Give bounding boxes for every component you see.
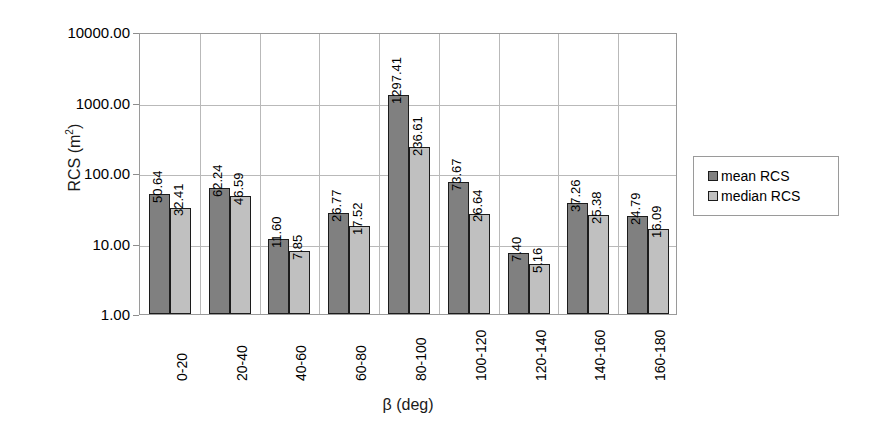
bar-mean-60-80[interactable] bbox=[328, 213, 349, 314]
bar-value-label: 37.26 bbox=[569, 180, 582, 213]
bar-value-label: 236.61 bbox=[411, 116, 424, 156]
y-tick-label: 100.00 bbox=[84, 166, 130, 181]
gridline-vertical bbox=[618, 34, 619, 314]
legend-swatch-icon bbox=[708, 171, 718, 181]
bar-median-100-120[interactable] bbox=[469, 214, 490, 315]
bar-value-label: 73.67 bbox=[450, 159, 463, 192]
legend-item-median[interactable]: median RCS bbox=[694, 186, 838, 206]
bar-value-label: 26.77 bbox=[330, 190, 343, 223]
bar-median-80-100[interactable] bbox=[409, 147, 430, 314]
bar-median-60-80[interactable] bbox=[349, 226, 370, 314]
gridline-vertical bbox=[379, 34, 380, 314]
bar-value-label: 17.52 bbox=[351, 203, 364, 236]
rcs-bar-chart: RCS (m2) 10000.001000.00100.0010.001.00 … bbox=[0, 0, 871, 434]
bar-value-label: 11.60 bbox=[270, 216, 283, 248]
bar-value-label: 5.16 bbox=[531, 247, 544, 272]
bar-value-label: 7.40 bbox=[510, 236, 523, 261]
x-axis-title: β (deg) bbox=[139, 396, 677, 414]
bar-mean-40-60[interactable] bbox=[268, 239, 289, 314]
y-tick-mark bbox=[133, 315, 139, 316]
bar-mean-160-180[interactable] bbox=[627, 216, 648, 314]
gridline-vertical bbox=[558, 34, 559, 314]
y-tick-label: 1.00 bbox=[101, 307, 130, 322]
x-tick-label-0-20: 0-20 bbox=[175, 353, 189, 381]
legend-item-mean[interactable]: mean RCS bbox=[694, 166, 838, 186]
legend-item-label: mean RCS bbox=[721, 169, 789, 183]
bar-mean-100-120[interactable] bbox=[448, 182, 469, 314]
bar-value-label: 62.24 bbox=[211, 164, 224, 197]
gridline-vertical bbox=[439, 34, 440, 314]
y-tick-label: 10000.00 bbox=[67, 25, 130, 40]
bar-median-0-20[interactable] bbox=[170, 208, 191, 315]
gridline-vertical bbox=[260, 34, 261, 314]
x-tick-label-40-60: 40-60 bbox=[294, 345, 308, 381]
x-tick-label-60-80: 60-80 bbox=[354, 345, 368, 381]
bar-mean-140-160[interactable] bbox=[567, 203, 588, 314]
x-tick-label-160-180: 160-180 bbox=[653, 330, 667, 381]
bar-median-20-40[interactable] bbox=[230, 196, 251, 314]
bar-value-label: 32.41 bbox=[172, 184, 185, 217]
bar-mean-80-100[interactable] bbox=[388, 95, 409, 314]
bar-value-label: 24.79 bbox=[629, 192, 642, 225]
bar-median-160-180[interactable] bbox=[648, 229, 669, 314]
gridline-vertical bbox=[499, 34, 500, 314]
bar-value-label: 50.64 bbox=[151, 170, 164, 203]
bar-value-label: 7.85 bbox=[291, 235, 304, 260]
x-tick-label-100-120: 100-120 bbox=[474, 330, 488, 381]
bar-value-label: 46.59 bbox=[232, 173, 245, 206]
y-tick-label: 1000.00 bbox=[76, 96, 130, 111]
bar-value-label: 16.09 bbox=[650, 205, 663, 238]
y-axis-title-exponent: 2 bbox=[64, 129, 75, 135]
x-tick-label-80-100: 80-100 bbox=[414, 337, 428, 381]
x-tick-label-20-40: 20-40 bbox=[235, 345, 249, 381]
chart-legend: mean RCSmedian RCS bbox=[693, 156, 839, 216]
bar-median-140-160[interactable] bbox=[588, 215, 609, 314]
x-tick-label-120-140: 120-140 bbox=[534, 330, 548, 381]
bar-value-label: 26.64 bbox=[471, 190, 484, 223]
legend-swatch-icon bbox=[708, 191, 718, 201]
bar-mean-20-40[interactable] bbox=[209, 188, 230, 314]
y-tick-label: 10.00 bbox=[92, 237, 130, 252]
bar-median-40-60[interactable] bbox=[289, 251, 310, 314]
y-axis-title-close: ) bbox=[66, 124, 83, 129]
bar-value-label: 25.38 bbox=[590, 191, 603, 224]
bar-mean-0-20[interactable] bbox=[149, 194, 170, 314]
bar-value-label: 1297.41 bbox=[390, 57, 403, 104]
y-axis-title-base: RCS (m bbox=[66, 135, 83, 192]
legend-item-label: median RCS bbox=[721, 189, 800, 203]
gridline-vertical bbox=[319, 34, 320, 314]
gridline-vertical bbox=[200, 34, 201, 314]
x-tick-label-140-160: 140-160 bbox=[593, 330, 607, 381]
